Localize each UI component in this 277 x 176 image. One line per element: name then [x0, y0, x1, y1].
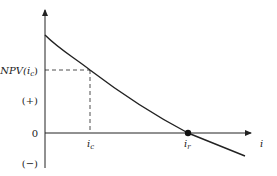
ir-label: ir [184, 138, 191, 151]
npv-chart: NPV(ic) (+) 0 (−) ic ir i [0, 0, 277, 176]
x-axis-label: i [260, 138, 263, 149]
irr-point [185, 130, 191, 136]
zero-label: 0 [32, 128, 38, 139]
npv-ic-label: NPV(ic) [0, 65, 38, 78]
minus-label: (−) [22, 158, 38, 169]
npv-curve [45, 35, 245, 156]
ic-label: ic [87, 138, 94, 151]
plus-label: (+) [22, 95, 38, 106]
